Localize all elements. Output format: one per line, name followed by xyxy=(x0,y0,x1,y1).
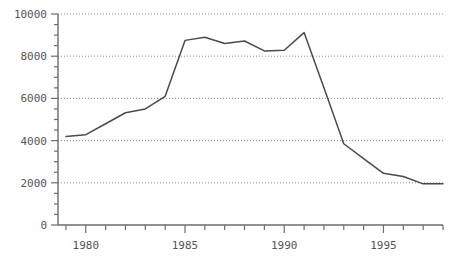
chart-canvas: 1000080006000400020000 1980198519901995 xyxy=(0,0,466,259)
y-axis-tick-label: 10000 xyxy=(14,8,47,21)
chart-background xyxy=(0,0,466,259)
y-axis-tick-label: 2000 xyxy=(21,177,48,190)
line-chart: 1000080006000400020000 1980198519901995 xyxy=(0,0,466,259)
x-axis-tick-label: 1985 xyxy=(172,239,199,252)
y-axis-tick-label: 4000 xyxy=(21,135,48,148)
y-axis-tick-label: 8000 xyxy=(21,50,48,63)
x-axis-tick-label: 1980 xyxy=(73,239,100,252)
x-axis-tick-label: 1995 xyxy=(370,239,397,252)
y-axis-tick-label: 6000 xyxy=(21,92,48,105)
x-axis-tick-label: 1990 xyxy=(271,239,298,252)
y-axis-tick-label: 0 xyxy=(40,219,47,232)
